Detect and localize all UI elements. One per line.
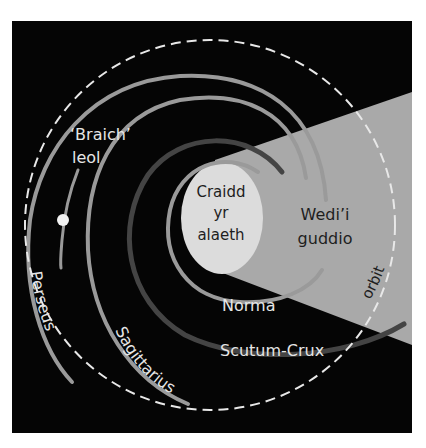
sun-marker [57, 214, 69, 226]
scutum-crux-label: Scutum-Crux [220, 341, 324, 360]
core-label-line2: yr [213, 204, 229, 222]
hidden-zone-label-line2: guddio [298, 229, 353, 248]
local-arm-label-line2: leol [72, 148, 101, 167]
core-label-line3: alaeth [197, 226, 244, 244]
local-arm-label-line1: ‘Braich’ [70, 125, 131, 144]
core-label-line1: Craidd [196, 183, 245, 201]
hidden-zone-label-line1: Wedi’i [301, 205, 350, 224]
norma-label: Norma [222, 296, 275, 315]
galaxy-diagram: ‘Braich’ leol Craidd yr alaeth Wedi’i gu… [0, 0, 426, 448]
